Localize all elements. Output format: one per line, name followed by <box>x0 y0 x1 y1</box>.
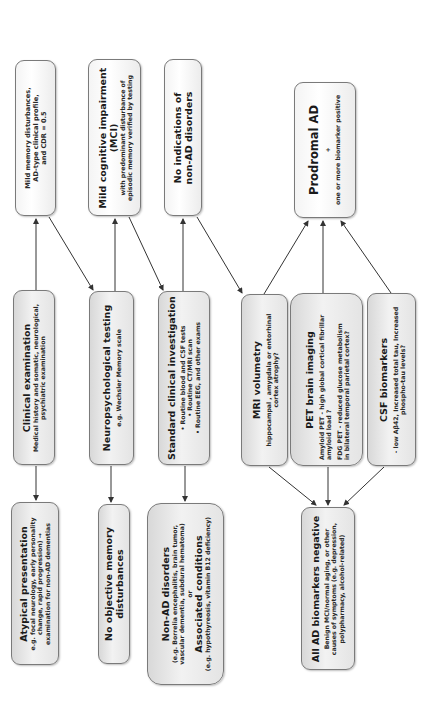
non-ad-or: or <box>186 590 193 597</box>
clinical-line: psychiatric examination <box>40 303 47 451</box>
box-neuropsychological-testing: Neuropsychological testing e.g. Wechsler… <box>89 291 134 465</box>
no-objective-title: No objective memory <box>103 527 114 641</box>
box-all-ad-biomarkers-negative: All AD biomarkers negative Benign MCI/no… <box>301 507 355 670</box>
all-negative-title: All AD biomarkers negative <box>310 515 321 661</box>
atypical-line: examination for non-AD dementias <box>44 517 51 650</box>
pet-amyloid-line: Amyloid PET - high global cortical fibri… <box>317 300 324 460</box>
box-mci: Mild cognitive impairment (MCI) with pre… <box>88 59 141 216</box>
box-csf-biomarkers: CSF biomarkers - low Aβ42, Increased tot… <box>367 293 416 466</box>
box-prodromal-ad: Prodromal AD + one or more biomarker pos… <box>294 82 356 218</box>
box-standard-clinical-investigation: Standard clinical investigation • Routin… <box>158 291 210 465</box>
no-objective-title: disturbances <box>114 549 125 618</box>
associated-title: Associated conditions <box>193 535 204 652</box>
standard-line: • Routine blood and CSF tests <box>179 322 186 434</box>
mri-line: hippocampal , amygdala or entorhinal <box>264 314 271 447</box>
non-ad-title: Non-AD disorders <box>160 547 171 641</box>
all-negative-line: causes of symptoms (e.g. depression, <box>331 522 338 654</box>
neuropsych-title: Neuropsychological testing <box>101 305 112 451</box>
pet-fdg-line: in bilateral temporal parietal cortex? <box>342 300 349 460</box>
mri-line: cortex atrophy? <box>272 314 279 447</box>
pet-amyloid-line: amyloid load ? <box>325 300 332 460</box>
atypical-title: Atypical presentation <box>18 526 29 642</box>
csf-title: CSF biomarkers <box>377 337 388 421</box>
box-pet-brain-imaging: PET brain imaging Amyloid PET - high glo… <box>290 293 363 466</box>
mild-memory-line: Mild memory disturbances, <box>24 87 32 188</box>
all-negative-line: polypharmacy, alcohol-related) <box>338 522 345 654</box>
box-atypical-presentation: Atypical presentation e.g. focal neurolo… <box>11 502 59 665</box>
mci-line: episodic memory verified by testing <box>126 75 133 201</box>
atypical-line: change, rapid progression) → <box>37 517 44 650</box>
mri-title: MRI volumetry <box>250 341 261 419</box>
non-ad-line: vascular dementia, subdural hematoma) <box>178 523 185 665</box>
mild-memory-line: and CDR = 0.5 <box>40 87 48 188</box>
mci-title-abbr: (MCI) <box>107 123 118 152</box>
box-non-ad-disorders: Non-AD disorders (e.g. Borrelia encephal… <box>147 503 224 685</box>
standard-line: • Routine EEG, and other exams <box>194 322 201 434</box>
mild-memory-line: AD-type clinical profile, <box>32 87 40 188</box>
neuropsych-line: e.g. Wechsler Memory scale <box>115 329 122 427</box>
no-indications-title: non-AD disorders <box>183 91 194 184</box>
prodromal-title: Prodromal AD <box>308 105 321 195</box>
prodromal-line: one or more biomarker positive <box>335 95 342 205</box>
pet-fdg-line: FDG PET - reduced glucose metabolism <box>335 300 342 460</box>
associated-line: (e.g. hypothyreosis, vitamin B12 deficie… <box>204 517 211 671</box>
mci-line: with predominant disturbance of <box>118 75 125 201</box>
clinical-title: Clinical examination <box>21 323 32 432</box>
box-mild-memory-disturbances: Mild memory disturbances, AD-type clinic… <box>15 60 56 216</box>
prodromal-plus: + <box>324 147 331 152</box>
non-ad-line: (e.g. Borrelia encephalitis, brain tumor… <box>171 523 178 665</box>
box-no-indications-non-ad: No indications of non-AD disorders <box>164 59 202 216</box>
box-mri-volumetry: MRI volumetry hippocampal , amygdala or … <box>241 294 288 466</box>
all-negative-line: Benign MCI/normal aging, or other <box>323 522 330 654</box>
mci-title: Mild cognitive impairment <box>96 67 107 208</box>
csf-line: - low Aβ42, Increased total tau, Increas… <box>391 306 398 452</box>
box-clinical-examination: Clinical examination Medical history and… <box>13 290 55 465</box>
standard-title: Standard clinical investigation <box>166 296 177 460</box>
csf-line: phospho-tau levels? <box>399 306 406 452</box>
atypical-line: e.g. focal neurology, early personality <box>29 517 36 650</box>
pet-title: PET brain imaging <box>303 331 314 429</box>
clinical-line: Medical history and somatic, neurologica… <box>32 303 39 451</box>
standard-line: • Routine CT/MRI scan <box>187 322 194 434</box>
box-no-objective-memory: No objective memory disturbances <box>98 504 130 664</box>
no-indications-title: No indications of <box>172 92 183 183</box>
